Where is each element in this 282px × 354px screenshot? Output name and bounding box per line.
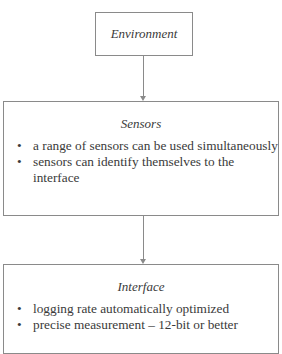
environment-box: Environment bbox=[95, 12, 193, 56]
interface-bullet: precise measurement – 12-bit or better bbox=[16, 317, 278, 333]
sensors-bullet-list: a range of sensors can be used simultane… bbox=[4, 138, 278, 186]
interface-bullet-list: logging rate automatically optimized pre… bbox=[4, 301, 278, 333]
arrow-environment-to-sensors bbox=[143, 56, 144, 96]
interface-title: Interface bbox=[4, 279, 278, 295]
sensors-title: Sensors bbox=[4, 116, 278, 132]
interface-bullet: logging rate automatically optimized bbox=[16, 301, 278, 317]
environment-title: Environment bbox=[111, 26, 178, 42]
arrow-sensors-to-interface bbox=[143, 216, 144, 259]
sensors-bullet: sensors can identify themselves to the i… bbox=[16, 154, 278, 186]
sensors-box: Sensors a range of sensors can be used s… bbox=[3, 101, 279, 216]
interface-box: Interface logging rate automatically opt… bbox=[3, 264, 279, 354]
sensors-bullet: a range of sensors can be used simultane… bbox=[16, 138, 278, 154]
